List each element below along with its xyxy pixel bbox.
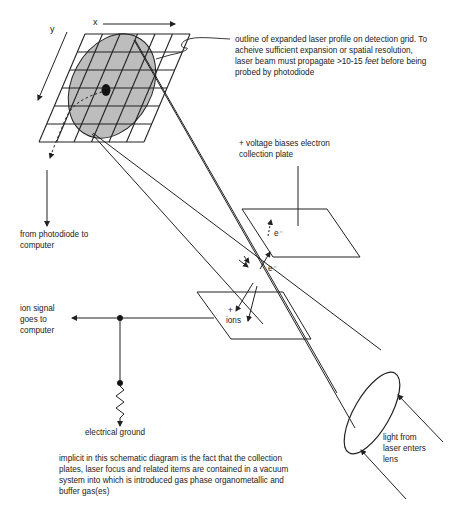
caption-line: light from <box>383 432 417 443</box>
caption-line: probed by photodiode <box>235 67 314 78</box>
footnote-line: system into which is introduced gas phas… <box>59 475 284 486</box>
caption-line: from photodiode to <box>20 229 88 240</box>
footnote-line: implicit in this schematic diagram is th… <box>59 453 282 464</box>
ions-label: ions <box>226 315 241 326</box>
caption-line: laser beam must propagate >10-15 feet be… <box>235 56 426 67</box>
y-axis-label: y <box>50 24 55 35</box>
caption-line: collection plate <box>239 149 293 160</box>
footnote-line: plates, laser focus and related items ar… <box>59 464 288 475</box>
electron-arrows <box>239 220 271 269</box>
electron-label-top: e⁻ <box>274 228 283 239</box>
caption-line: ion signal <box>20 303 55 314</box>
caption-line: computer <box>20 240 54 251</box>
ground-label: electrical ground <box>85 427 145 438</box>
y-axis-arrow <box>38 32 67 100</box>
caption-line: + voltage biases electron <box>239 138 330 149</box>
caption-text: before being <box>379 57 427 66</box>
electron-collection-plate <box>242 166 360 257</box>
caption-line: laser enters <box>383 443 426 454</box>
caption-line: acheive sufficient expansion or spatial … <box>235 45 413 56</box>
caption-line: goes to <box>20 314 47 325</box>
electron-label-bottom: e⁻ <box>268 263 277 274</box>
caption-line: outline of expanded laser profile on det… <box>235 34 427 45</box>
caption-line: lens <box>383 454 398 465</box>
footnote-line: buffer gas(es) <box>59 486 109 497</box>
caption-line: computer <box>20 325 54 336</box>
ion-signal-circuit <box>72 315 214 426</box>
caption-text: laser beam must propagate >10-15 <box>235 57 365 66</box>
laser-profile-ellipse <box>51 19 173 154</box>
x-axis-label: x <box>93 17 98 28</box>
profile-callout-line <box>156 38 230 59</box>
beam-spot <box>102 84 111 96</box>
caption-italic: feet <box>365 57 379 66</box>
